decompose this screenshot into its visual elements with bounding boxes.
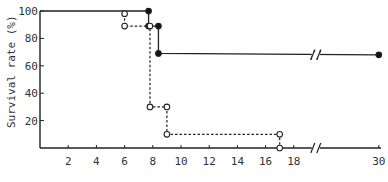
survival-chart: 204060801002468101214161830 Survival rat… [0, 0, 388, 182]
x-tick-label: 12 [203, 155, 216, 168]
filled-circle-marker [146, 8, 152, 14]
open-circle-marker [164, 104, 170, 110]
x-tick-label: 14 [231, 155, 245, 168]
y-axis-label: Survival rate (%) [5, 15, 18, 128]
filled-circle-marker [376, 52, 382, 58]
y-tick-label: 20 [25, 115, 38, 128]
x-tick-label: 10 [174, 155, 187, 168]
series-dashed-line [125, 14, 280, 148]
x-tick-label: 16 [259, 155, 272, 168]
open-circle-marker [277, 132, 283, 138]
x-tick-label: 8 [149, 155, 156, 168]
series-solid-line [40, 11, 379, 55]
open-circle-marker [122, 11, 128, 17]
open-circle-marker [277, 145, 283, 151]
series-layer [40, 8, 382, 151]
open-circle-marker [147, 104, 153, 110]
open-circle-marker [147, 23, 153, 29]
y-tick-label: 80 [25, 32, 38, 45]
x-tick-label: 30 [372, 155, 385, 168]
open-circle-marker [164, 132, 170, 138]
y-tick-label: 100 [18, 5, 38, 18]
axes: 204060801002468101214161830 [18, 5, 385, 168]
filled-circle-marker [156, 51, 162, 57]
x-tick-label: 2 [65, 155, 72, 168]
y-tick-label: 60 [25, 60, 38, 73]
x-tick-label: 4 [93, 155, 100, 168]
x-tick-label: 6 [121, 155, 128, 168]
filled-circle-marker [156, 23, 162, 29]
y-tick-label: 40 [25, 87, 38, 100]
open-circle-marker [122, 23, 128, 29]
x-tick-label: 18 [287, 155, 300, 168]
